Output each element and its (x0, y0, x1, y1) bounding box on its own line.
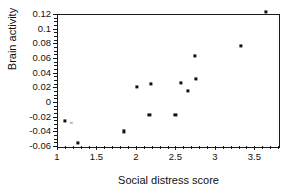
y-axis-tick-label: 0.12 (33, 9, 52, 19)
scatter-point (239, 44, 242, 47)
scatter-point (77, 141, 80, 144)
scatter-point (148, 114, 151, 117)
y-axis-title: Brain activity (6, 0, 18, 95)
x-axis-tick-label: 1 (54, 152, 59, 162)
y-axis-tick-label: 0.06 (33, 53, 52, 63)
y-axis-tick-label: -0.04 (29, 127, 51, 137)
x-axis-tick-label: 2.5 (169, 152, 182, 162)
y-axis-tick-label: -0.06 (29, 141, 51, 151)
scatter-point (194, 77, 197, 80)
x-axis-tick-label: 3 (212, 152, 217, 162)
scatter-point (194, 54, 197, 57)
scatter-point (186, 89, 189, 92)
scatter-point (135, 85, 138, 88)
scatter-plot-figure: 0.120.10.080.060.040.020-0.02-0.04-0.061… (0, 0, 298, 195)
scatter-point (63, 119, 66, 122)
scatter-point (70, 121, 72, 123)
scatter-point (179, 82, 182, 85)
y-axis-tick-label: 0 (46, 97, 51, 107)
x-axis-tick-label: 1.5 (90, 152, 103, 162)
x-axis-title: Social distress score (57, 174, 280, 186)
y-axis-tick-label: 0.08 (33, 39, 52, 49)
y-axis-tick-label: -0.02 (29, 112, 51, 122)
scatter-point (149, 82, 152, 85)
scatter-point (174, 114, 177, 117)
x-axis-tick-label: 3.5 (248, 152, 261, 162)
scatter-point (122, 130, 125, 133)
y-axis-tick-label: 0.02 (33, 83, 52, 93)
data-points-layer (57, 14, 280, 148)
scatter-point (265, 10, 268, 13)
x-axis-tick-label: 2 (133, 152, 138, 162)
y-axis-tick-label: 0.1 (38, 24, 51, 34)
y-axis-tick-label: 0.04 (33, 68, 52, 78)
